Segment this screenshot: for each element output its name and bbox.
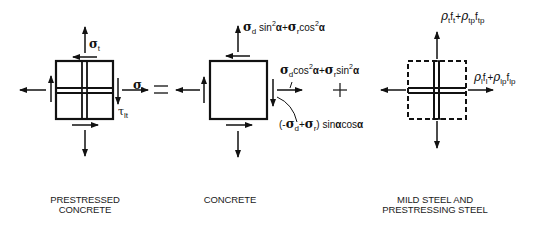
concrete-stress-arrows [176, 26, 302, 157]
cos-text: cos [341, 119, 357, 130]
rho: ρ [474, 70, 481, 84]
subscript: tp [468, 16, 475, 25]
sigma-d: σ [286, 117, 295, 131]
sigma-d: σ [243, 20, 252, 34]
equals-operator [154, 86, 168, 93]
concrete-right-formula: σdcos2α+σrsin2α [280, 63, 359, 79]
sin-text: sin [256, 22, 272, 33]
close-sin: ) sin [316, 119, 335, 130]
alpha: α [357, 119, 363, 130]
subscript: l [142, 85, 144, 94]
sin-text: sin [336, 65, 349, 76]
sigma-symbol: σ [133, 78, 142, 92]
subscript: lp [509, 77, 515, 86]
caption-steel: MILD STEEL AND PRESTRESSING STEEL [365, 195, 505, 215]
sigma-symbol: σ [89, 37, 98, 51]
steel-top-formula: ρtft+ρtpftp [441, 9, 484, 25]
subscript: t [98, 44, 100, 53]
sigma-d: σ [280, 63, 289, 77]
cos-text: cos [293, 65, 309, 76]
subscript: lt [124, 111, 128, 120]
open-paren: (- [279, 119, 286, 130]
sigma-r: σ [288, 20, 297, 34]
caption-line-1: CONCRETE [195, 195, 265, 205]
sigma-l-label: σl [133, 75, 144, 94]
concrete-shear-formula: (-σd+σr) sinαcosα [279, 117, 363, 133]
prestressed-concrete-element [56, 61, 113, 119]
cos-text: cos [299, 22, 315, 33]
sigma-r: σ [325, 63, 334, 77]
caption-line-2: PRESTRESSING STEEL [365, 205, 505, 215]
plus-operator [333, 83, 347, 97]
steel-element [408, 61, 466, 119]
alpha: α [319, 22, 325, 33]
subscript: tp [478, 16, 485, 25]
caption-line-2: CONCRETE [40, 205, 130, 215]
alpha: α [353, 65, 359, 76]
concrete-element [210, 61, 267, 119]
tau-lt-label: τlt [118, 101, 128, 120]
rho: ρ [441, 9, 448, 23]
sigma-r: σ [305, 117, 314, 131]
concrete-top-formula: σd sin2α+σrcos2α [243, 20, 325, 36]
sigma-t-label: σt [89, 34, 100, 53]
caption-concrete: CONCRETE [195, 195, 265, 205]
steel-right-formula: ρlfl+ρlpflp [474, 70, 516, 86]
caption-prestressed-concrete: PRESTRESSED CONCRETE [40, 195, 130, 215]
